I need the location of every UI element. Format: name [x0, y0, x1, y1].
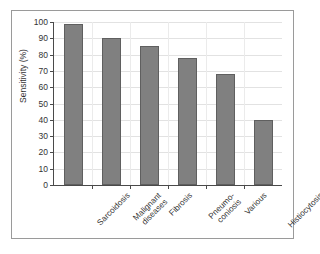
- y-axis-tick-mark: [50, 185, 54, 186]
- y-axis-tick-mark: [50, 71, 54, 72]
- x-axis-tick-mark: [168, 185, 169, 189]
- y-axis-tick-mark: [50, 120, 54, 121]
- y-axis-tick-mark: [50, 38, 54, 39]
- x-axis-tick-mark: [130, 185, 131, 189]
- y-axis-tick-label: 70: [39, 66, 48, 76]
- y-axis-title: Sensitivity (%): [18, 21, 28, 131]
- y-axis-tick-mark: [50, 136, 54, 137]
- x-axis-category-label: Various: [243, 191, 269, 217]
- y-axis-tick-mark: [50, 22, 54, 23]
- y-axis-tick-mark: [50, 169, 54, 170]
- chart-frame: Sensitivity (%) 0102030405060708090100Sa…: [11, 10, 294, 239]
- x-axis-tick-mark: [206, 185, 207, 189]
- y-axis-tick-label: 50: [39, 99, 48, 109]
- bar[interactable]: [102, 38, 121, 185]
- y-axis-tick-label: 20: [39, 147, 48, 157]
- x-axis-tick-mark: [92, 185, 93, 189]
- category-separator: [92, 22, 93, 185]
- y-axis-tick-label: 60: [39, 82, 48, 92]
- x-axis-category-label: Fibrosis: [167, 191, 194, 218]
- y-axis-tick-mark: [50, 104, 54, 105]
- y-axis-tick-mark: [50, 55, 54, 56]
- y-axis-tick-label: 40: [39, 115, 48, 125]
- category-separator: [206, 22, 207, 185]
- category-separator: [244, 22, 245, 185]
- y-axis-tick-label: 100: [34, 17, 48, 27]
- y-axis-tick-label: 30: [39, 131, 48, 141]
- x-axis-category-label: Sarcoidosis: [95, 191, 131, 227]
- x-axis-category-label: Pneumo- coniosis: [207, 191, 243, 227]
- y-axis-tick-label: 90: [39, 33, 48, 43]
- x-axis-category-label: Histiocytosis X: [286, 191, 306, 236]
- y-axis-tick-mark: [50, 152, 54, 153]
- y-axis-tick-label: 80: [39, 50, 48, 60]
- figure: Sensitivity (%) 0102030405060708090100Sa…: [0, 0, 306, 254]
- category-separator: [130, 22, 131, 185]
- y-axis-tick-label: 0: [43, 180, 48, 190]
- x-axis-category-label: Malignant diseases: [131, 191, 169, 229]
- y-axis-tick-label: 10: [39, 164, 48, 174]
- bar[interactable]: [140, 46, 159, 185]
- x-axis-tick-mark: [244, 185, 245, 189]
- bar[interactable]: [254, 120, 273, 185]
- plot-area: 0102030405060708090100SarcoidosisMaligna…: [53, 22, 282, 186]
- category-separator: [168, 22, 169, 185]
- bar[interactable]: [64, 24, 83, 185]
- bar[interactable]: [178, 58, 197, 185]
- bar[interactable]: [216, 74, 235, 185]
- y-axis-tick-mark: [50, 87, 54, 88]
